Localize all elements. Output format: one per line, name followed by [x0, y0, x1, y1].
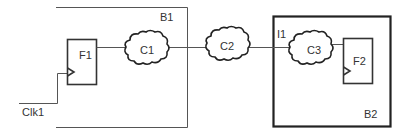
block-b1: B1: [56, 8, 188, 128]
flipflop-f2: F2: [344, 39, 373, 84]
flipflop-f1-label: F1: [79, 49, 92, 61]
port-i1-label: I1: [277, 28, 286, 40]
block-b2-label: B2: [364, 108, 377, 120]
flipflop-f2-label: F2: [353, 55, 366, 67]
cloud-c1: C1: [125, 31, 169, 65]
timing-path-diagram: B1 B2 Clk1 F1 C1 C2 I1 C3 F2: [0, 0, 405, 134]
cloud-c3-label: C3: [307, 44, 321, 56]
cloud-c1-label: C1: [140, 44, 154, 56]
clk1-label: Clk1: [22, 106, 44, 118]
block-b1-label: B1: [160, 11, 173, 23]
cloud-c2: C2: [206, 27, 250, 61]
clock-input-icon: [68, 68, 75, 76]
cloud-c2-label: C2: [220, 40, 234, 52]
flipflop-f1-box: [68, 40, 97, 85]
clock-input-icon: [344, 67, 351, 75]
clk1-signal: Clk1: [19, 74, 67, 119]
flipflop-f1: F1: [68, 40, 97, 85]
clk1-wire: [19, 74, 67, 104]
cloud-c3: C3: [289, 31, 333, 65]
block-b1-outline: [56, 8, 188, 128]
